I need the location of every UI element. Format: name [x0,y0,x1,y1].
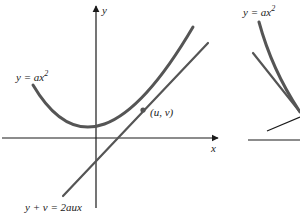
curve-label: y = ax2 [15,69,48,83]
tangent-point [140,107,145,112]
right-curve-label: y = ax2 [242,4,275,18]
curve-label-exponent: 2 [44,69,48,78]
right-tangent-line [253,53,300,112]
parabola-tangent-figure: y x y = ax2 (u, v) y + v = 2aux y = ax2 [0,0,300,216]
right-curve-label-exponent: 2 [271,4,275,13]
x-axis-label: x [210,142,216,154]
right-panel: y = ax2 [242,4,300,140]
point-label: (u, v) [150,106,174,119]
y-axis-label: y [101,4,107,16]
curve-label-base: y = ax [15,71,44,83]
tangent-line [63,43,208,196]
left-panel: y x y = ax2 (u, v) y + v = 2aux [2,4,218,213]
right-curve-label-base: y = ax [242,6,271,18]
tangent-label: y + v = 2aux [24,201,82,213]
right-short-line [267,117,300,131]
